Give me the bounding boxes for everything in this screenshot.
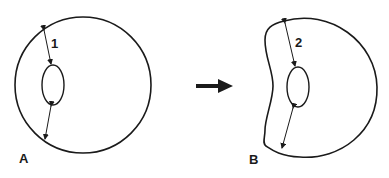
measure-label-b: 2 bbox=[295, 35, 302, 50]
panel-b bbox=[264, 18, 377, 157]
panel-a bbox=[15, 17, 151, 153]
measure-arrow-lower-a bbox=[45, 106, 51, 139]
outer-shape-b bbox=[264, 18, 377, 157]
inner-ellipse-a bbox=[42, 65, 64, 105]
panel-label-b: B bbox=[249, 152, 258, 167]
outer-circle-a bbox=[15, 17, 151, 153]
right-arrow-icon bbox=[196, 79, 233, 93]
inner-ellipse-b bbox=[287, 67, 309, 107]
diagram-canvas bbox=[0, 0, 389, 178]
measure-arrow-upper-b bbox=[285, 23, 295, 66]
measure-arrow-upper-a bbox=[44, 30, 51, 64]
panel-label-a: A bbox=[19, 151, 28, 166]
measure-label-a: 1 bbox=[51, 36, 58, 51]
measure-arrow-lower-b bbox=[282, 108, 293, 148]
